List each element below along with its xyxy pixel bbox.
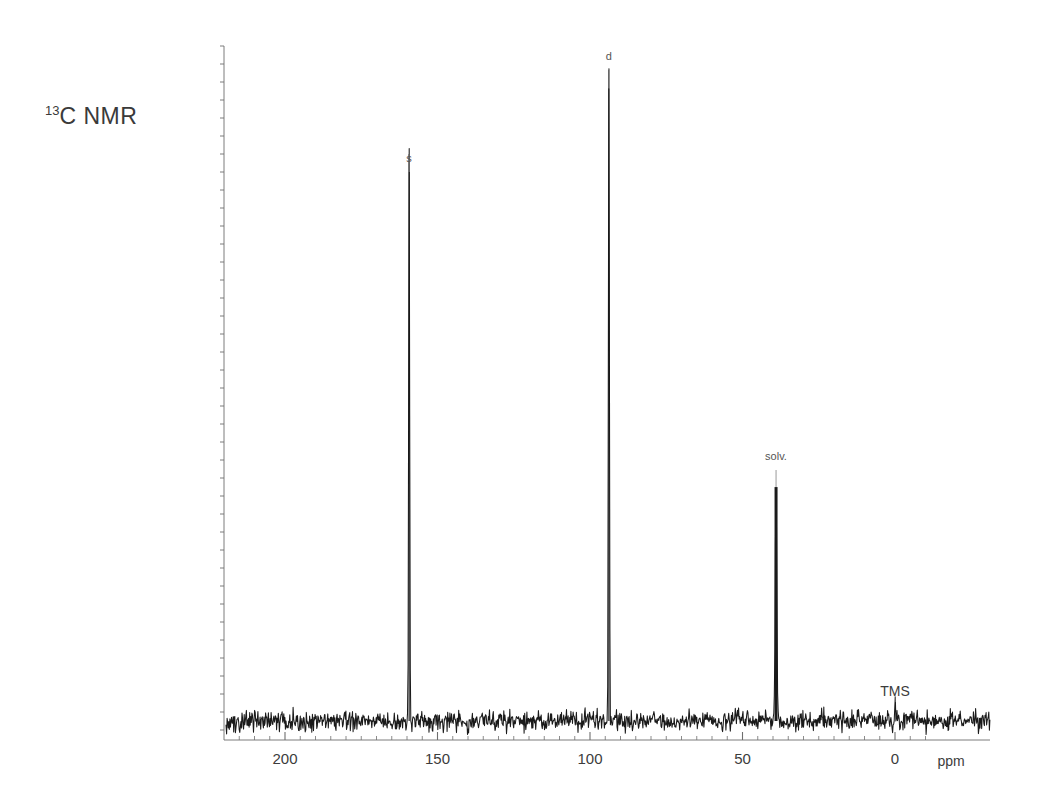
peak-label-d: d [606, 50, 612, 62]
spectrum-trace [226, 69, 990, 735]
axes-group [220, 46, 990, 740]
x-tick-label-150: 150 [425, 750, 450, 767]
peak-label-solvent: solv. [765, 450, 787, 462]
x-tick-label-0: 0 [891, 750, 899, 767]
peak-label-s: s [406, 152, 412, 164]
x-tick-label-50: 50 [734, 750, 751, 767]
x-axis-unit-label: ppm [937, 753, 964, 769]
x-tick-label-100: 100 [577, 750, 602, 767]
nmr-figure: 13C NMR s d solv. TMS 200 150 100 50 0 p… [0, 0, 1041, 811]
x-tick-label-200: 200 [272, 750, 297, 767]
annotation-leaders [409, 69, 895, 702]
peak-label-tms: TMS [880, 683, 910, 699]
